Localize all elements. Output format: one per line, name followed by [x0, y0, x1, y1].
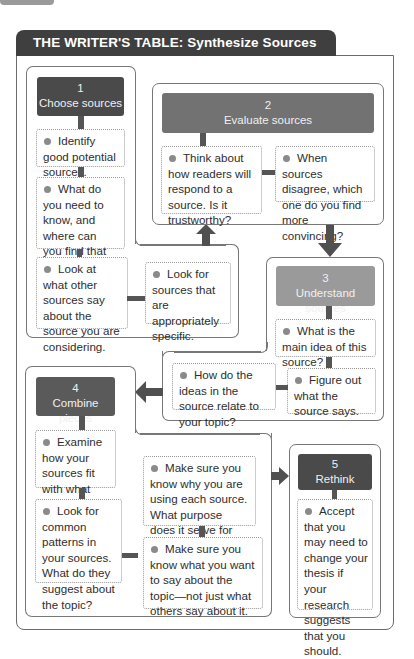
- step-1-label-box: 1 Choose sources: [37, 77, 124, 116]
- group-1-topline: [140, 244, 232, 246]
- note-know-what-to-say: Make sure you know what you want to say …: [143, 537, 263, 609]
- step-3-label-box: 3 Understand sources: [276, 266, 375, 306]
- diagram-title: THE WRITER'S TABLE: Synthesize Sources: [16, 30, 336, 56]
- note-other-sources: Look at what other sources say about the…: [36, 257, 128, 329]
- note-what-to-know: What do you need to know, and where can …: [36, 177, 125, 249]
- connector: [200, 133, 206, 147]
- group-3-topline: [169, 351, 261, 353]
- note-common-patterns: Look for common patterns in your sources…: [35, 499, 122, 583]
- group-3-topleft: [162, 351, 174, 363]
- note-ideas-relate: How do the ideas in the source relate to…: [172, 363, 276, 410]
- step-2-title: Evaluate sources: [162, 113, 374, 128]
- bullet-icon: [43, 439, 50, 446]
- step-1-number: 1: [37, 81, 124, 96]
- bullet-icon: [295, 377, 302, 384]
- bullet-icon: [283, 155, 290, 162]
- connector: [275, 385, 288, 390]
- note-identify-sources: Identify good potential sources.: [36, 129, 125, 167]
- connector: [262, 170, 276, 175]
- note-examine-fit: Examine how your sources fit with what y…: [35, 430, 116, 488]
- arrow-left-icon: [135, 381, 163, 403]
- arrow-down-icon: [318, 225, 342, 257]
- group-4-topline: [140, 433, 265, 435]
- bullet-icon: [151, 465, 158, 472]
- bullet-icon: [180, 372, 187, 379]
- bullet-icon: [43, 508, 50, 515]
- step-5-number: 5: [298, 457, 372, 472]
- note-sources-disagree: When sources disagree, which one do you …: [275, 146, 375, 202]
- note-know-why: Make sure you know why you are using eac…: [143, 456, 256, 526]
- bullet-icon: [153, 271, 160, 278]
- step-1-title: Choose sources: [37, 96, 124, 111]
- connector: [127, 296, 146, 301]
- bullet-icon: [169, 155, 176, 162]
- note-specific-sources: Look for sources that are appropriately …: [145, 262, 231, 324]
- bullet-icon: [44, 138, 51, 145]
- bullet-icon: [44, 186, 51, 193]
- step-2-number: 2: [162, 98, 374, 113]
- arrow-right-icon: [271, 467, 289, 485]
- step-5-title: Rethink: [298, 472, 372, 487]
- bullet-icon: [151, 546, 158, 553]
- note-readers-respond: Think about how readers will respond to …: [161, 146, 262, 214]
- connector: [326, 306, 332, 320]
- group-4-topright: [260, 433, 272, 445]
- note-figure-out: Figure out what the source says.: [287, 368, 376, 414]
- connector: [122, 553, 138, 558]
- bullet-icon: [44, 266, 51, 273]
- step-5-label-box: 5 Rethink: [298, 454, 372, 490]
- note-main-idea: What is the main idea of this source?: [275, 319, 376, 357]
- step-4-label-box: 4 Combine pieces: [36, 377, 115, 416]
- step-2-label-box: 2 Evaluate sources: [162, 93, 374, 133]
- connector: [79, 416, 85, 431]
- step-3-number: 3: [276, 271, 375, 286]
- group-1-topright: [226, 244, 239, 256]
- group-3-corner: [256, 342, 268, 353]
- bullet-icon: [305, 508, 312, 515]
- step-4-title: Combine pieces: [36, 396, 115, 426]
- note-accept-change: Accept that you may need to change your …: [297, 499, 373, 610]
- step-4-number: 4: [36, 381, 115, 396]
- corner-tab: [0, 0, 54, 5]
- bullet-icon: [283, 328, 290, 335]
- connector: [78, 116, 84, 130]
